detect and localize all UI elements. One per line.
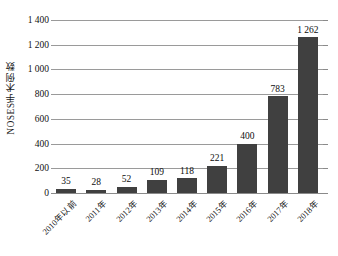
gridline [51,193,323,194]
axis-tick-mark [323,144,328,145]
bar-value-label: 28 [92,178,102,188]
gridline [51,45,323,46]
bar[interactable] [207,166,227,193]
bar-value-label: 400 [240,132,254,142]
y-axis-tick-label: 800 [5,89,49,99]
bar-value-label: 52 [122,175,132,185]
bar-value-label: 1 262 [297,26,318,36]
axis-tick-mark [323,94,328,95]
axis-tick-mark [323,168,328,169]
gridline [51,20,323,21]
bar-chart-figure: NOSES手术例数 02004006008001 0001 2001 400 3… [0,0,338,256]
bar-column[interactable]: 783 [268,85,288,193]
bar-column[interactable]: 35 [56,177,76,193]
axis-tick-mark [323,193,328,194]
axis-tick-mark [323,45,328,46]
axis-tick-mark [323,119,328,120]
bar-value-label: 221 [210,154,224,164]
bar-column[interactable]: 118 [177,167,197,193]
bar[interactable] [56,189,76,193]
y-axis-tick-label: 1 000 [5,64,49,74]
bar[interactable] [86,190,106,193]
bar-value-label: 109 [150,168,164,178]
y-axis-tick-label: 400 [5,139,49,149]
bar-column[interactable]: 52 [117,175,137,193]
bar-column[interactable]: 400 [237,132,257,193]
y-axis-tick-label: 600 [5,114,49,124]
bar[interactable] [298,37,318,193]
bar-column[interactable]: 1 262 [298,26,318,193]
bar[interactable] [268,96,288,193]
bar-value-label: 118 [180,167,194,177]
gridline [51,69,323,70]
y-axis-tick-label: 200 [5,163,49,173]
bar-value-label: 35 [61,177,71,187]
bar-value-label: 783 [271,85,285,95]
axis-tick-mark [323,69,328,70]
bar[interactable] [117,187,137,193]
y-axis-tick-label: 0 [5,188,49,198]
plot-area: 3528521091182214007831 262 [51,20,323,193]
bar[interactable] [147,180,167,193]
bar-column[interactable]: 221 [207,154,227,193]
y-axis-tick-label: 1 400 [5,15,49,25]
y-axis-tick-label: 1 200 [5,40,49,50]
axis-tick-mark [323,20,328,21]
bar[interactable] [237,144,257,193]
bar-column[interactable]: 109 [147,168,167,193]
bar[interactable] [177,178,197,193]
bar-column[interactable]: 28 [86,178,106,193]
